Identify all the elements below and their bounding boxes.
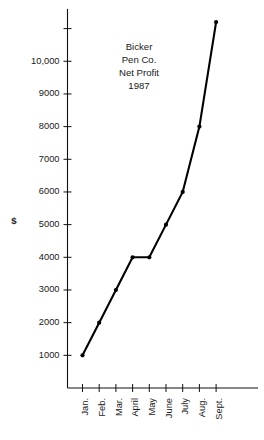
y-tick-label: 8000	[39, 121, 60, 131]
x-tick-label: Feb.	[97, 398, 107, 417]
y-tick-label: 3000	[39, 284, 60, 294]
y-tick-label: 10,000	[31, 56, 59, 66]
chart-title-block: Bicker Pen Co. Net Profit 1987	[119, 41, 159, 91]
chart-title-line-3: Net Profit	[119, 67, 159, 78]
x-tick-label: Aug.	[197, 398, 207, 417]
data-point-jan	[80, 353, 84, 357]
x-tick-label: May	[147, 398, 157, 416]
chart-title-line-4: 1987	[128, 80, 149, 91]
data-point-june	[164, 223, 168, 227]
y-tick-label: 1000	[39, 350, 60, 360]
y-axis-ticks: 10002000300040005000600070008000900010,0…	[31, 29, 71, 360]
x-tick-label: April	[130, 398, 140, 417]
data-point-mar	[114, 288, 118, 292]
y-tick-label: 7000	[39, 154, 60, 164]
chart-title-line-2: Pen Co.	[122, 54, 157, 65]
data-point-july	[181, 190, 185, 194]
line-chart-svg: 10002000300040005000600070008000900010,0…	[0, 0, 264, 440]
axes-group	[68, 9, 259, 388]
x-tick-label: Mar.	[114, 398, 124, 416]
x-axis-ticks: Jan.Feb.Mar.AprilMayJuneJulyAug.Sept.	[80, 384, 224, 420]
chart-title-line-1: Bicker	[126, 41, 153, 52]
y-tick-label: 2000	[39, 317, 60, 327]
data-point-sept	[214, 20, 218, 24]
y-tick-label: 9000	[39, 88, 60, 98]
data-point-april	[131, 255, 135, 259]
x-tick-label: Jan.	[80, 398, 90, 416]
x-tick-label: Sept.	[214, 398, 224, 420]
y-axis-title: $	[11, 215, 17, 226]
y-tick-label: 5000	[39, 219, 60, 229]
chart-container: 10002000300040005000600070008000900010,0…	[0, 0, 264, 440]
x-tick-label: July	[180, 398, 190, 415]
data-point-feb	[97, 321, 101, 325]
data-point-may	[147, 255, 151, 259]
data-point-aug	[197, 125, 201, 129]
x-tick-label: June	[164, 398, 174, 418]
y-tick-label: 6000	[39, 186, 60, 196]
y-tick-label: 4000	[39, 252, 60, 262]
